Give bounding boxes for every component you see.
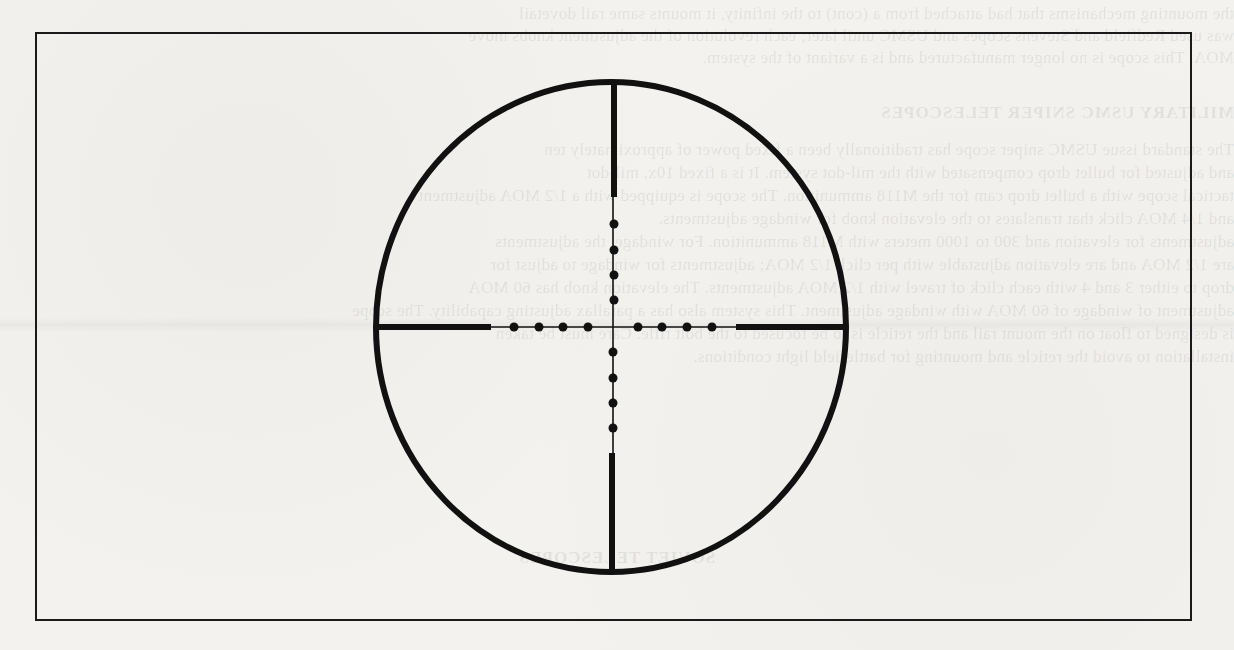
mil-dot-top xyxy=(610,246,619,255)
mil-dot-left xyxy=(535,323,544,332)
mil-dot-top xyxy=(610,271,619,280)
mil-dot-bottom xyxy=(609,348,618,357)
mil-dot-bottom xyxy=(609,399,618,408)
mil-dot-bottom xyxy=(609,424,618,433)
mil-dot-left xyxy=(559,323,568,332)
mil-dot-bottom xyxy=(609,374,618,383)
mil-dot-right xyxy=(634,323,643,332)
scanned-document-page: the mounting mechanisms that had attache… xyxy=(0,0,1234,650)
reticle xyxy=(376,82,846,572)
mil-dot-left xyxy=(584,323,593,332)
mil-dot-reticle-diagram xyxy=(0,0,1234,650)
mil-dot-top xyxy=(610,220,619,229)
mil-dot-top xyxy=(610,296,619,305)
mil-dot-right xyxy=(658,323,667,332)
mil-dot-right xyxy=(708,323,717,332)
mil-dot-left xyxy=(510,323,519,332)
mil-dot-right xyxy=(683,323,692,332)
